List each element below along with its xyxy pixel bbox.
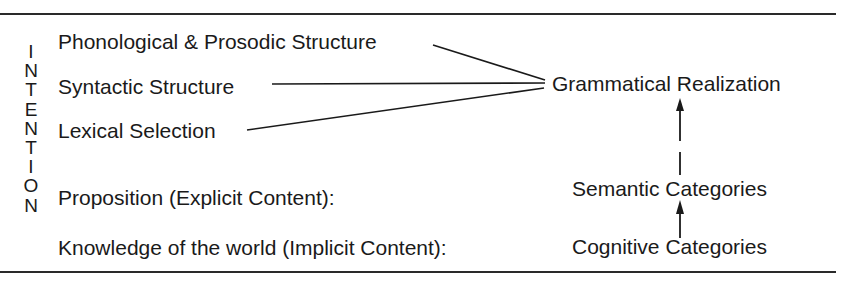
lexical-to-grammatical-line <box>247 88 544 130</box>
phonological-to-grammatical-line <box>433 45 545 80</box>
arrowhead-up-icon <box>676 200 684 214</box>
connector-lines <box>0 0 844 287</box>
arrowhead-up-icon <box>676 98 684 111</box>
syntactic-to-grammatical-line <box>272 83 545 84</box>
